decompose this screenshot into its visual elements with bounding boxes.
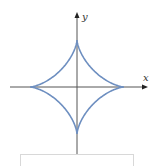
astroid-diagram: x y	[0, 0, 157, 166]
caption-box	[20, 154, 134, 166]
x-axis-arrow-icon	[142, 85, 148, 90]
x-axis-label: x	[143, 72, 149, 83]
y-axis-arrow-icon	[75, 12, 80, 18]
y-axis-label: y	[81, 11, 88, 22]
